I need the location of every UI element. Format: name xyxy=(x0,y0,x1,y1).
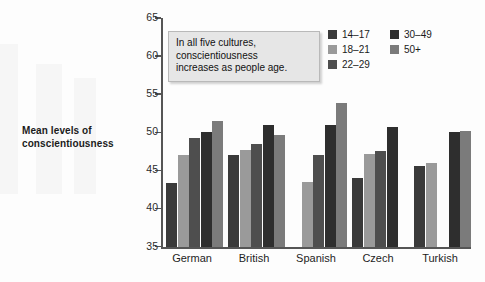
x-label-british: British xyxy=(223,252,285,264)
legend-item-22-29: 22–29 xyxy=(328,57,390,72)
bar-british-22-29 xyxy=(251,144,262,246)
y-axis-line xyxy=(161,18,163,248)
chart-legend: 14–17 18–21 22–29 30–49 50+ xyxy=(328,27,458,72)
x-label-spanish: Spanish xyxy=(285,252,347,264)
y-tick-label: 65 xyxy=(146,11,158,23)
x-label-german: German xyxy=(161,252,223,264)
bar-czech-30-49 xyxy=(387,127,398,247)
legend-column-right: 30–49 50+ xyxy=(390,27,432,72)
bar-german-30-49 xyxy=(201,132,212,246)
bar-spanish-50+ xyxy=(336,103,347,246)
bar-british-30-49 xyxy=(263,125,274,247)
callout-line-2: conscientiousness xyxy=(176,50,312,63)
legend-label: 22–29 xyxy=(342,59,370,70)
bar-british-14-17 xyxy=(228,155,239,246)
bar-turkish-18-21 xyxy=(426,163,437,247)
y-tick-label: 45 xyxy=(146,163,158,175)
legend-swatch-icon xyxy=(390,45,399,54)
bar-german-18-21 xyxy=(178,155,189,246)
bar-british-50+ xyxy=(274,135,285,246)
chart-figure: 14–17 Mean levels ofconscientiousness 35… xyxy=(0,0,485,282)
bar-german-50+ xyxy=(212,121,223,247)
bar-czech-18-21 xyxy=(364,154,375,246)
legend-item-30-49: 30–49 xyxy=(390,27,432,42)
bar-german-22-29 xyxy=(189,138,200,247)
legend-item-18-21: 18–21 xyxy=(328,42,390,57)
bar-german-14-17 xyxy=(166,183,177,247)
callout-line-1: In all five cultures, xyxy=(176,37,312,50)
legend-swatch-icon xyxy=(328,60,337,69)
y-tick-label: 35 xyxy=(146,240,158,252)
bar-spanish-30-49 xyxy=(325,125,336,246)
legend-swatch-icon xyxy=(390,30,399,39)
y-axis-title: 14–17 Mean levels ofconscientiousness xyxy=(22,124,140,150)
y-tick-label: 60 xyxy=(146,49,158,61)
bar-turkish-14-17 xyxy=(414,166,425,247)
callout-line-3: increases as people age. xyxy=(176,62,312,75)
legend-label: 30–49 xyxy=(404,29,432,40)
x-axis-line xyxy=(161,247,471,249)
bar-czech-14-17 xyxy=(352,178,363,247)
y-tick-label: 55 xyxy=(146,87,158,99)
bar-spanish-22-29 xyxy=(313,155,324,246)
legend-column-left: 14–17 18–21 22–29 xyxy=(328,27,390,72)
y-tick-label: 50 xyxy=(146,125,158,137)
legend-label: 14–17 xyxy=(342,29,370,40)
bar-turkish-30-49 xyxy=(449,132,460,246)
x-label-turkish: Turkish xyxy=(409,252,471,264)
y-axis-title-text: Mean levels ofconscientiousness xyxy=(22,125,114,149)
legend-label: 18–21 xyxy=(342,44,370,55)
y-tick-label: 40 xyxy=(146,201,158,213)
background-texture xyxy=(0,44,18,194)
legend-swatch-icon xyxy=(328,30,337,39)
bar-czech-22-29 xyxy=(375,151,386,246)
legend-label: 50+ xyxy=(404,44,421,55)
annotation-callout: In all five cultures, conscientiousness … xyxy=(168,31,320,82)
x-label-czech: Czech xyxy=(347,252,409,264)
bar-spanish-18-21 xyxy=(302,182,313,247)
bar-british-18-21 xyxy=(240,150,251,247)
legend-item-50-plus: 50+ xyxy=(390,42,432,57)
legend-item-14-17: 14–17 xyxy=(328,27,390,42)
legend-swatch-icon xyxy=(328,45,337,54)
bar-turkish-50+ xyxy=(460,131,471,247)
